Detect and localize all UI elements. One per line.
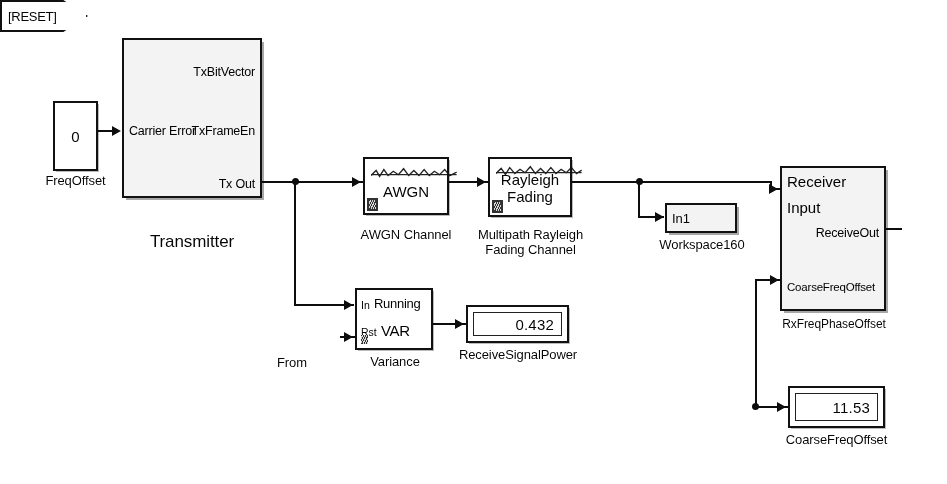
variance-corner-marker-icon — [359, 333, 370, 346]
receive-signal-power-value: 0.432 — [473, 312, 562, 336]
wire-workspace-branch-down — [638, 181, 640, 218]
arrow-coarse-freq-offset-input — [770, 275, 779, 285]
wire-receive-out-stub — [886, 228, 902, 230]
rayleigh-fading-channel-block[interactable]: Rayleigh Fading — [488, 157, 572, 217]
noise-waveform-icon — [371, 167, 457, 179]
coarse-freq-offset-value: 11.53 — [795, 393, 878, 421]
arrow-workspace-in1 — [655, 212, 664, 222]
variance-line2: VAR — [381, 322, 410, 339]
receive-signal-power-display[interactable]: 0.432 — [466, 305, 569, 343]
workspace-caption: Workspace160 — [641, 238, 763, 253]
awgn-corner-marker-icon — [367, 198, 378, 211]
workspace-block[interactable]: In1 — [665, 203, 737, 233]
arrow-awgn-input — [352, 177, 361, 187]
freq-offset-caption: FreqOffset — [23, 174, 128, 189]
port-tx-frame-en: TxFrameEn — [192, 124, 256, 138]
receive-signal-power-caption: ReceiveSignalPower — [448, 348, 588, 363]
freq-offset-constant-block[interactable]: 0 — [53, 101, 98, 171]
rayleigh-label-bottom: Fading — [507, 189, 553, 204]
arrow-receive-signal-power-display — [455, 319, 464, 329]
awgn-channel-block[interactable]: AWGN — [363, 157, 449, 215]
arrow-transmitter-carrier-error — [112, 126, 121, 136]
port-carrier-error: Carrier Error — [129, 124, 196, 138]
rayleigh-channel-caption: Multipath Rayleigh Fading Channel — [463, 228, 598, 258]
port-coarse-freq-offset: CoarseFreqOffset — [787, 281, 875, 293]
simulink-diagram-canvas: 0 FreqOffset TxBitVector Carrier Error T… — [0, 0, 947, 484]
wire-feedback-vertical — [755, 279, 757, 408]
rayleigh-corner-marker-icon — [492, 200, 503, 213]
arrow-coarse-freq-offset-display — [777, 402, 786, 412]
arrow-rayleigh-input — [477, 177, 486, 187]
receiver-subsystem-block[interactable]: Receiver Input ReceiveOut CoarseFreqOffs… — [780, 166, 886, 311]
rayleigh-label-top: Rayleigh — [501, 172, 559, 187]
wire-txout-branch-down — [294, 181, 296, 306]
awgn-label: AWGN — [383, 184, 429, 199]
awgn-channel-caption: AWGN Channel — [341, 228, 471, 243]
arrow-variance-in — [344, 300, 353, 310]
variance-block[interactable]: In Running Rst VAR — [355, 288, 433, 350]
freq-offset-value: 0 — [55, 103, 96, 169]
coarse-freq-offset-display[interactable]: 11.53 — [788, 386, 885, 428]
variance-port-in: In — [361, 299, 370, 311]
variance-caption: Variance — [349, 355, 441, 370]
arrow-variance-rst — [344, 332, 353, 342]
coarse-freq-offset-caption: CoarseFreqOffset — [774, 433, 899, 448]
wire-txout-to-awgn — [262, 181, 363, 183]
from-caption: From — [247, 356, 337, 371]
receiver-caption: RxFreqPhaseOffset — [764, 318, 904, 332]
receiver-title-line1: Receiver — [787, 174, 846, 189]
receiver-title-line2: Input — [787, 200, 820, 215]
port-receive-out: ReceiveOut — [816, 226, 879, 240]
transmitter-caption: Transmitter — [117, 232, 267, 252]
wire-rayleigh-to-receiver — [572, 181, 772, 183]
workspace-port-in1: In1 — [672, 211, 690, 226]
port-tx-out: Tx Out — [219, 177, 255, 191]
transmitter-subsystem-block[interactable]: TxBitVector Carrier Error TxFrameEn Tx O… — [122, 38, 262, 198]
from-block[interactable]: [RESET] — [0, 0, 88, 32]
arrow-receiver-input — [769, 184, 778, 194]
from-tag-label: [RESET] — [8, 9, 56, 24]
port-tx-bit-vector: TxBitVector — [193, 65, 255, 79]
variance-line1: Running — [374, 296, 420, 311]
